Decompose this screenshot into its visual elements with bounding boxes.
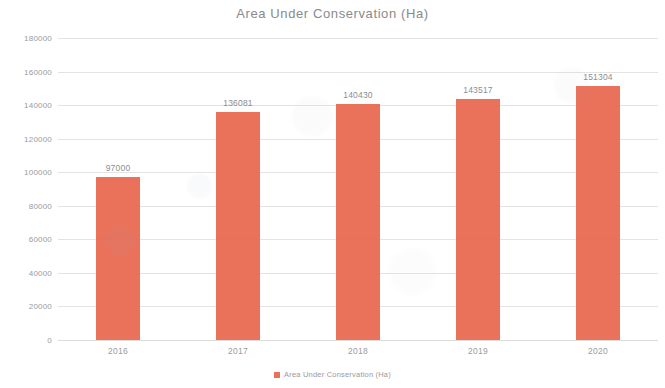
y-axis-tick-label: 20000 [29,302,52,311]
bar-slot: 97000 [58,38,178,340]
bar[interactable] [456,99,500,340]
bar-slot: 151304 [538,38,658,340]
bar[interactable] [576,86,620,340]
bar-slot: 143517 [418,38,538,340]
x-axis-tick-label: 2020 [588,346,608,356]
y-axis-tick-label: 160000 [24,67,52,76]
x-axis-tick-label: 2017 [228,346,248,356]
bar-value-label: 151304 [583,72,613,82]
bar-slot: 140430 [298,38,418,340]
plot-area: 1800001600001400001200001000008000060000… [58,38,658,340]
chart-title: Area Under Conservation (Ha) [0,6,665,21]
bar-slot: 136081 [178,38,298,340]
y-axis-tick-label: 40000 [29,268,52,277]
y-axis-tick-label: 120000 [24,134,52,143]
legend-label: Area Under Conservation (Ha) [284,370,391,379]
y-axis-tick-label: 80000 [29,201,52,210]
y-axis-tick-label: 0 [47,336,52,345]
y-axis-tick-label: 180000 [24,34,52,43]
legend-swatch-icon [274,372,280,378]
bar[interactable] [216,112,260,340]
x-axis-tick-label: 2019 [468,346,488,356]
bar-chart: Area Under Conservation (Ha) 18000016000… [0,0,665,388]
bar[interactable] [96,177,140,340]
bar[interactable] [336,104,380,340]
bar-group: 97000136081140430143517151304 [58,38,658,340]
y-axis-tick-label: 100000 [24,168,52,177]
bar-value-label: 97000 [106,163,131,173]
chart-legend: Area Under Conservation (Ha) [0,370,665,379]
gridline [58,340,658,341]
bar-value-label: 143517 [463,85,493,95]
bar-value-label: 140430 [343,90,373,100]
y-axis-tick-label: 140000 [24,101,52,110]
bar-value-label: 136081 [223,98,253,108]
x-axis-tick-label: 2016 [108,346,128,356]
y-axis-tick-label: 60000 [29,235,52,244]
x-axis-tick-label: 2018 [348,346,368,356]
